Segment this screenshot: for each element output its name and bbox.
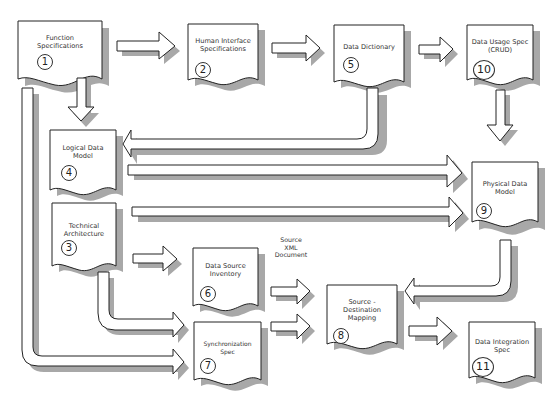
document-4-shape	[50, 130, 123, 201]
label-line: Human Interface	[188, 37, 258, 45]
document-10-label: Data Usage Spec (CRUD)	[465, 38, 535, 54]
label-line: (CRUD)	[465, 46, 535, 54]
label-line: Physical Data	[472, 180, 538, 188]
arrow-6-to-8	[271, 279, 315, 309]
label-line: Data Integration	[469, 338, 535, 346]
label-line: Model	[50, 152, 116, 160]
document-7-label: Synchronization Spec	[194, 340, 261, 356]
document-6-shape	[193, 248, 265, 317]
document-3-label: Technical Architecture	[52, 222, 116, 238]
label-line: Logical Data	[50, 144, 116, 152]
label-line: Data Dictionary	[334, 43, 404, 51]
document-2-shape	[188, 24, 265, 91]
document-1-label: Function Specifications	[18, 34, 102, 50]
document-1-number: 1	[37, 54, 53, 70]
arrow-3-to-7	[98, 272, 189, 343]
arrow-9-to-8	[405, 240, 518, 310]
document-7-shape	[194, 322, 268, 391]
annotation-line: XML	[273, 244, 309, 252]
label-line: Architecture	[52, 230, 116, 238]
label-line: Function	[18, 34, 102, 42]
label-line: Destination	[327, 306, 397, 314]
label-line: Model	[472, 188, 538, 196]
label-line: Spec	[194, 348, 261, 356]
arrow-8-to-11	[409, 317, 458, 350]
document-11-label: Data Integration Spec	[469, 338, 535, 354]
label-line: Specifications	[18, 42, 102, 50]
arrow-5-to-4	[123, 88, 387, 164]
annotation-line: Document	[273, 251, 309, 259]
arrow-10-to-9	[487, 90, 518, 146]
document-11-shape	[469, 322, 542, 389]
label-line: Data Source	[193, 262, 258, 270]
document-9-label: Physical Data Model	[472, 180, 538, 196]
arrow-3-to-9	[132, 197, 469, 232]
arrow-1-to-2	[117, 32, 180, 64]
arrow-7-to-8	[271, 314, 315, 344]
document-5-number: 5	[343, 57, 359, 73]
label-line: Mapping	[327, 314, 397, 322]
document-4-number: 4	[61, 165, 77, 181]
source-xml-document-annotation: Source XML Document	[273, 236, 309, 259]
document-7-number: 7	[200, 358, 216, 374]
arrow-5-to-10	[419, 37, 458, 67]
label-line: Spec	[469, 346, 535, 354]
document-9-number: 9	[476, 203, 492, 219]
label-line: Inventory	[193, 270, 258, 278]
arrow-3-to-6	[133, 246, 182, 276]
label-line: Specifications	[188, 45, 258, 53]
document-6-number: 6	[200, 286, 216, 302]
document-3-number: 3	[61, 240, 77, 256]
document-3-shape	[52, 203, 123, 277]
document-4-label: Logical Data Model	[50, 144, 116, 160]
label-line: Synchronization	[194, 340, 261, 348]
arrow-4-to-9	[128, 155, 468, 193]
label-line: Source -	[327, 298, 397, 306]
document-9-shape	[472, 162, 545, 235]
document-2-label: Human Interface Specifications	[188, 37, 258, 53]
annotation-line: Source	[273, 236, 309, 244]
document-6-label: Data Source Inventory	[193, 262, 258, 278]
document-10-number: 10	[473, 60, 495, 80]
document-1-shape	[18, 21, 109, 93]
label-line: Data Usage Spec	[465, 38, 535, 46]
document-2-number: 2	[195, 62, 211, 78]
document-10-shape	[467, 25, 540, 91]
document-5-label: Data Dictionary	[334, 43, 404, 51]
label-line: Technical	[52, 222, 116, 230]
document-8-label: Source - Destination Mapping	[327, 298, 397, 322]
document-11-number: 11	[472, 357, 494, 377]
arrow-2-to-5	[272, 35, 325, 66]
document-8-number: 8	[333, 328, 349, 344]
